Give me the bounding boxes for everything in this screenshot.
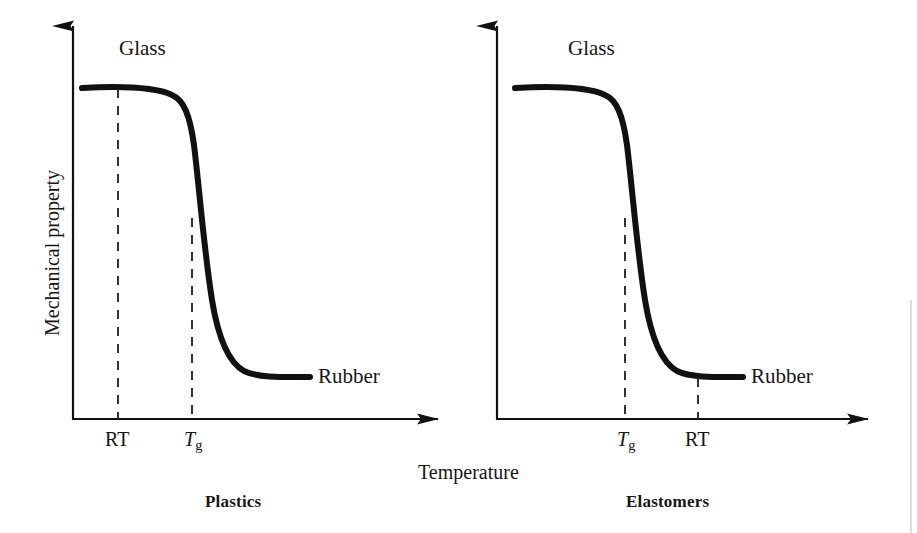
curve-plastics bbox=[82, 87, 310, 377]
curve-label-rubber-plastics: Rubber bbox=[318, 366, 380, 387]
tick-label-elastomers-tg: Tg bbox=[617, 429, 635, 452]
curve-label-glass-plastics: Glass bbox=[119, 38, 166, 59]
caption-plastics: Plastics bbox=[205, 493, 261, 510]
tick-label-plastics-rt: RT bbox=[105, 429, 129, 449]
figure-canvas bbox=[0, 0, 917, 533]
y-axis-label: Mechanical property bbox=[42, 170, 62, 336]
polymer-modulus-figure: Mechanical property Glass Rubber RT Tg P… bbox=[0, 0, 917, 533]
tick-label-elastomers-tg-main: T bbox=[617, 428, 628, 450]
tick-label-plastics-rt-main: RT bbox=[105, 428, 129, 450]
panel-plastics bbox=[72, 26, 438, 419]
tick-label-plastics-tg-sub: g bbox=[195, 437, 202, 453]
panel-elastomers bbox=[496, 26, 868, 419]
curve-elastomers bbox=[515, 87, 743, 377]
curve-label-rubber-elastomers: Rubber bbox=[751, 366, 813, 387]
tick-label-elastomers-tg-sub: g bbox=[628, 437, 635, 453]
x-axis-label: Temperature bbox=[418, 462, 519, 482]
curve-label-glass-elastomers: Glass bbox=[568, 38, 615, 59]
tick-label-plastics-tg: Tg bbox=[184, 429, 202, 452]
tick-label-plastics-tg-main: T bbox=[184, 428, 195, 450]
tick-label-elastomers-rt: RT bbox=[685, 429, 709, 449]
caption-elastomers: Elastomers bbox=[626, 493, 709, 510]
tick-label-elastomers-rt-main: RT bbox=[685, 428, 709, 450]
